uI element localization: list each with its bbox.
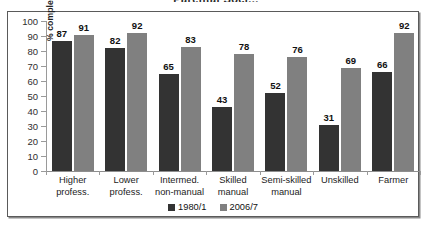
y-tick-label: 80 [27, 46, 38, 57]
category-label: Farmer [367, 175, 420, 187]
category-label: Higher profess. [46, 175, 99, 198]
bar-2006-7[interactable]: 69 [341, 68, 361, 172]
chart-frame: % completing Leaving Cert. 0102030405060… [7, 11, 419, 217]
legend-swatch-icon [168, 204, 175, 211]
bar-value-label: 92 [399, 20, 410, 31]
y-tick-label: 90 [27, 31, 38, 42]
y-tick-label: 100 [22, 16, 38, 27]
bar-1980-1[interactable]: 66 [372, 72, 392, 171]
category-label: Unskilled [313, 175, 366, 187]
bar-2006-7[interactable]: 92 [394, 33, 414, 171]
y-tick-label: 10 [27, 151, 38, 162]
x-tick [420, 171, 421, 175]
category-label: Intermed. non-manual [153, 175, 206, 198]
bar-group: 3169 [319, 21, 361, 171]
y-tick [41, 156, 46, 157]
y-tick [41, 21, 46, 22]
bar-value-label: 65 [163, 61, 174, 72]
y-tick-label: 70 [27, 61, 38, 72]
bar-value-label: 91 [78, 22, 89, 33]
y-tick [41, 36, 46, 37]
bar-value-label: 69 [346, 55, 357, 66]
chart-title: Parental Soci... [0, 0, 432, 2]
bar-value-label: 43 [217, 94, 228, 105]
bar-group: 8791 [52, 21, 94, 171]
legend-item-2006-7[interactable]: 2006/7 [220, 202, 258, 212]
plot-area: % completing Leaving Cert. 0102030405060… [46, 21, 420, 171]
bar-1980-1[interactable]: 87 [52, 41, 72, 172]
bar-value-label: 87 [56, 28, 67, 39]
y-tick [41, 141, 46, 142]
bar-1980-1[interactable]: 31 [319, 125, 339, 172]
bar-2006-7[interactable]: 92 [127, 33, 147, 171]
category-label: Semi-skilled manual [260, 175, 313, 198]
bar-1980-1[interactable]: 65 [159, 74, 179, 172]
bar-value-label: 82 [110, 35, 121, 46]
y-tick [41, 66, 46, 67]
y-tick-label: 50 [27, 91, 38, 102]
x-axis-line [46, 171, 420, 172]
y-tick [41, 126, 46, 127]
legend-label: 1980/1 [178, 202, 206, 212]
legend-swatch-icon [220, 204, 227, 211]
bar-value-label: 78 [239, 41, 250, 52]
bar-2006-7[interactable]: 76 [287, 57, 307, 171]
y-tick [41, 96, 46, 97]
bar-group: 5276 [265, 21, 307, 171]
bar-1980-1[interactable]: 52 [265, 93, 285, 171]
y-tick [41, 111, 46, 112]
bar-group: 6692 [372, 21, 414, 171]
y-tick-label: 60 [27, 76, 38, 87]
y-tick-label: 40 [27, 106, 38, 117]
y-tick-label: 0 [33, 166, 38, 177]
bar-value-label: 76 [292, 44, 303, 55]
y-tick [41, 51, 46, 52]
bar-2006-7[interactable]: 78 [234, 54, 254, 171]
bar-value-label: 31 [324, 112, 335, 123]
y-tick-label: 20 [27, 136, 38, 147]
bar-1980-1[interactable]: 43 [212, 107, 232, 172]
bar-group: 6583 [159, 21, 201, 171]
bar-value-label: 66 [377, 59, 388, 70]
legend-item-1980-1[interactable]: 1980/1 [168, 202, 206, 212]
chart-legend: 1980/12006/7 [8, 202, 418, 212]
category-label: Lower profess. [99, 175, 152, 198]
y-tick [41, 81, 46, 82]
bar-group: 8292 [105, 21, 147, 171]
y-axis-line [46, 21, 47, 171]
bar-2006-7[interactable]: 91 [74, 35, 94, 172]
bar-group: 4378 [212, 21, 254, 171]
bar-2006-7[interactable]: 83 [181, 47, 201, 172]
category-label: Skilled manual [206, 175, 259, 198]
bar-value-label: 92 [132, 20, 143, 31]
bar-value-label: 52 [270, 80, 281, 91]
y-tick-label: 30 [27, 121, 38, 132]
legend-label: 2006/7 [230, 202, 258, 212]
bar-value-label: 83 [185, 34, 196, 45]
bar-1980-1[interactable]: 82 [105, 48, 125, 171]
